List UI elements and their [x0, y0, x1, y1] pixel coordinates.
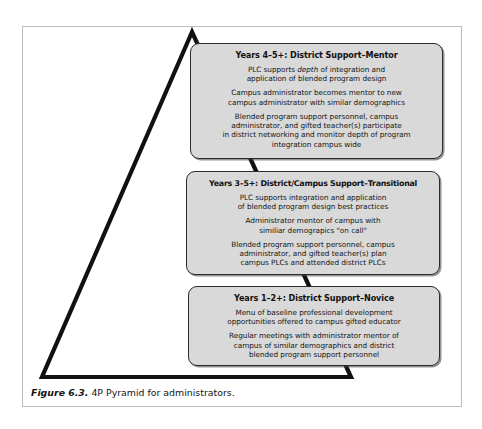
- stage-title-mentor: Years 4–5+: District Support–Mentor: [199, 50, 434, 61]
- paragraph-segment: Regular meetings with administrator ment…: [229, 331, 399, 340]
- paragraph-segment: Blended program support personnel, campu…: [231, 240, 394, 249]
- paragraph-segment: of integration and: [318, 65, 385, 74]
- paragraph-segment: PLC supports integration and application: [240, 193, 387, 202]
- paragraph-segment: Blended program support personnel, campu…: [235, 112, 398, 121]
- paragraph-segment: administrator, and gifted teacher(s) pla…: [240, 249, 387, 258]
- paragraph-segment: Menu of baseline professional developmen…: [235, 308, 392, 317]
- paragraph-segment: Campus administrator becomes mentor to n…: [231, 88, 402, 97]
- paragraph-segment: of blended program design best practices: [238, 202, 389, 211]
- paragraph-segment: campus of similar demographics and distr…: [234, 341, 394, 350]
- paragraph-segment: opportunities offered to campus gifted e…: [227, 317, 400, 326]
- stage-title-transitional: Years 3–5+: District/Campus Support–Tran…: [195, 178, 431, 189]
- stage-paragraph: PLC supports integration and application…: [195, 193, 431, 212]
- paragraph-segment: campus administrator with similar demogr…: [228, 98, 405, 107]
- figure-caption-label: Figure 6.3.: [31, 387, 88, 398]
- figure-caption: Figure 6.3. 4P Pyramid for administrator…: [31, 386, 451, 399]
- stage-box-mentor[interactable]: Years 4–5+: District Support–Mentor PLC …: [190, 43, 443, 159]
- stage-paragraph: Blended program support personnel, campu…: [199, 112, 434, 150]
- stage-paragraph: Campus administrator becomes mentor to n…: [199, 88, 434, 107]
- paragraph-segment: similiar demograpics "on call": [259, 226, 367, 235]
- stage-paragraph: Regular meetings with administrator ment…: [197, 331, 431, 359]
- stage-paragraph: PLC supports depth of integration and ap…: [199, 65, 434, 84]
- paragraph-segment: blended program support personnel: [249, 350, 379, 359]
- paragraph-segment: campus PLCs and attended district PLCs: [240, 258, 385, 267]
- stage-box-novice[interactable]: Years 1–2+: District Support–Novice Menu…: [188, 286, 440, 366]
- paragraph-segment: Administrator mentor of campus with: [246, 216, 381, 225]
- stage-box-transitional[interactable]: Years 3–5+: District/Campus Support–Tran…: [186, 171, 440, 275]
- stage-paragraph: Menu of baseline professional developmen…: [197, 308, 431, 327]
- stage-title-novice: Years 1–2+: District Support–Novice: [197, 293, 431, 304]
- paragraph-segment: in district networking and monitor depth…: [222, 130, 410, 139]
- stage-paragraph: Administrator mentor of campus with simi…: [195, 216, 431, 235]
- stage-paragraph: Blended program support personnel, campu…: [195, 240, 431, 268]
- figure-root: Years 4–5+: District Support–Mentor PLC …: [0, 0, 482, 429]
- paragraph-segment: administrator, and gifted teacher(s) par…: [231, 121, 401, 130]
- paragraph-segment: application of blended program design: [247, 74, 387, 83]
- paragraph-emphasis: depth: [297, 65, 318, 74]
- figure-caption-text: 4P Pyramid for administrators.: [88, 387, 234, 398]
- paragraph-segment: PLC supports: [248, 65, 297, 74]
- paragraph-segment: integration campus wide: [272, 140, 361, 149]
